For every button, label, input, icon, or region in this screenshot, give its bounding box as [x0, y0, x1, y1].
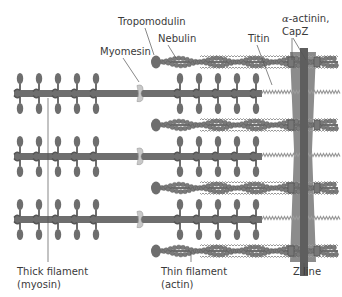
thick-filaments	[14, 73, 340, 240]
actin-monomer	[250, 63, 255, 68]
actin-monomer	[216, 252, 221, 257]
nebulin-leader	[168, 45, 176, 58]
actin-monomer	[172, 182, 177, 187]
tropomodulin-cap	[151, 119, 161, 132]
actin-monomer	[185, 183, 190, 188]
myosin-head	[93, 103, 99, 114]
actin-monomer	[328, 119, 333, 124]
myosin-head	[17, 73, 23, 84]
actin-monomer	[214, 182, 219, 187]
actin-monomer	[212, 252, 217, 257]
actin-monomer	[250, 252, 255, 257]
actin-monomer	[212, 63, 217, 68]
actin-monomer	[221, 189, 226, 194]
myosin-head	[93, 229, 99, 240]
myosin-head	[253, 103, 259, 114]
actin-monomer	[256, 56, 261, 61]
actin-monomer	[282, 120, 287, 125]
actin-monomer	[181, 245, 186, 250]
label-thick-filament-sub: (myosin)	[17, 279, 61, 291]
myosin-head	[196, 166, 202, 177]
myosin-head	[215, 136, 221, 147]
actin-monomer	[214, 245, 219, 250]
actin-monomer	[294, 182, 299, 187]
myosin-head	[55, 136, 61, 147]
actin-monomer	[170, 62, 175, 67]
actin-monomer	[324, 119, 329, 124]
actin-monomer	[246, 125, 251, 130]
myosin-head	[74, 166, 80, 177]
actin-monomer	[214, 56, 219, 61]
myosin-head	[17, 136, 23, 147]
myosin-head	[215, 166, 221, 177]
label-thin-filament-sub: (actin)	[161, 279, 193, 291]
myosin-head	[74, 199, 80, 210]
actin-monomer	[206, 120, 211, 125]
actin-monomer	[332, 119, 337, 124]
actin-monomer	[284, 125, 289, 130]
actin-monomer	[216, 126, 221, 131]
myosin-head	[36, 136, 42, 147]
myosin-head	[17, 103, 23, 114]
actin-monomer	[168, 57, 173, 62]
actin-monomer	[206, 57, 211, 62]
myosin-head	[17, 166, 23, 177]
actin-monomer	[254, 63, 259, 68]
actin-monomer	[324, 245, 329, 250]
actin-monomer	[179, 63, 184, 68]
actin-monomer	[177, 119, 182, 124]
actin-monomer	[177, 182, 182, 187]
actin-monomer	[334, 252, 339, 257]
actin-monomer	[174, 63, 179, 68]
label-titin: Titin	[248, 33, 270, 45]
actin-monomer	[170, 251, 175, 256]
z-line-core	[300, 48, 308, 276]
myosin-head	[177, 199, 183, 210]
actin-monomer	[332, 56, 337, 61]
actin-monomer	[185, 120, 190, 125]
actin-monomer	[172, 119, 177, 124]
actin-monomer	[168, 183, 173, 188]
actin-monomer	[248, 56, 253, 61]
myosin-head	[234, 199, 240, 210]
thick-filament	[14, 73, 340, 114]
actin-monomer	[221, 126, 226, 131]
actin-monomer	[326, 126, 331, 131]
actin-monomer	[172, 245, 177, 250]
myosin-head	[93, 136, 99, 147]
actin-monomer	[185, 57, 190, 62]
actin-monomer	[258, 189, 263, 194]
actin-monomer	[221, 63, 226, 68]
actin-monomer	[208, 188, 213, 193]
myosin-head	[17, 229, 23, 240]
actin-monomer	[183, 189, 188, 194]
myosin-head	[17, 199, 23, 210]
actin-monomer	[244, 183, 249, 188]
actin-monomer	[212, 189, 217, 194]
myosin-head	[234, 166, 240, 177]
actin-monomer	[210, 119, 215, 124]
myosin-head	[55, 103, 61, 114]
actin-monomer	[219, 56, 224, 61]
actin-monomer	[256, 119, 261, 124]
myosin-head	[177, 73, 183, 84]
actin-monomer	[282, 246, 287, 251]
actin-monomer	[330, 63, 335, 68]
actin-monomer	[284, 251, 289, 256]
myosin-head	[196, 73, 202, 84]
actin-monomer	[261, 120, 266, 125]
actin-monomer	[330, 252, 335, 257]
actin-monomer	[216, 189, 221, 194]
actin-monomer	[181, 182, 186, 187]
actin-monomer	[282, 183, 287, 188]
actin-monomer	[254, 189, 259, 194]
actin-monomer	[326, 189, 331, 194]
thick-filament	[14, 136, 340, 177]
actin-monomer	[334, 126, 339, 131]
myosin-head	[215, 199, 221, 210]
actin-monomer	[170, 125, 175, 130]
actin-monomer	[334, 189, 339, 194]
actin-monomer	[328, 245, 333, 250]
label-tropomodulin: Tropomodulin	[118, 16, 186, 28]
actin-monomer	[252, 119, 257, 124]
